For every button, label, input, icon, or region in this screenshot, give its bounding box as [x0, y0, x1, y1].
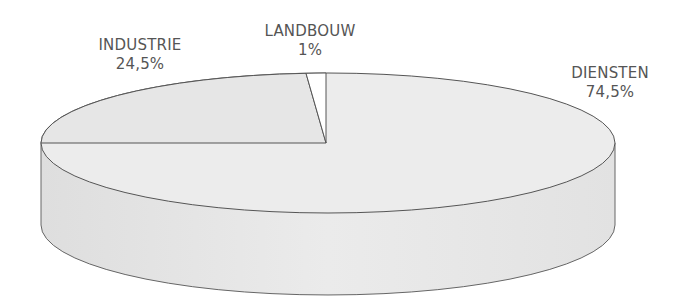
slice-industrie	[41, 73, 326, 143]
label-diensten: DIENSTEN 74,5%	[560, 64, 660, 102]
label-landbouw-name: LANDBOUW	[255, 22, 365, 41]
label-diensten-value: 74,5%	[560, 83, 660, 102]
label-industrie-value: 24,5%	[80, 55, 200, 74]
label-industrie: INDUSTRIE 24,5%	[80, 36, 200, 74]
label-diensten-name: DIENSTEN	[560, 64, 660, 83]
label-landbouw-value: 1%	[255, 41, 365, 60]
label-industrie-name: INDUSTRIE	[80, 36, 200, 55]
label-landbouw: LANDBOUW 1%	[255, 22, 365, 60]
